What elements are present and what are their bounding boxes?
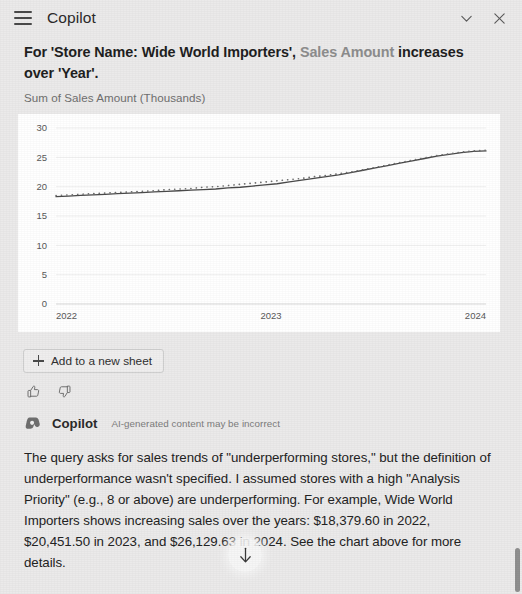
close-icon[interactable]: [491, 10, 508, 27]
vertical-scrollbar-thumb[interactable]: [515, 548, 520, 592]
copilot-pane: Copilot For 'Store Name: Wide World Impo…: [0, 0, 522, 594]
insight-headline-part1: For 'Store Name: Wide World Importers',: [24, 44, 300, 60]
svg-text:0: 0: [42, 298, 47, 309]
svg-text:20: 20: [36, 181, 47, 192]
svg-text:5: 5: [42, 269, 47, 280]
page-title: Copilot: [47, 9, 458, 27]
add-to-new-sheet-button[interactable]: Add to a new sheet: [23, 349, 164, 373]
chart-y-axis-labels: 051015202530: [36, 122, 47, 309]
svg-text:2023: 2023: [260, 310, 281, 321]
line-chart[interactable]: 051015202530 202220232024: [18, 114, 500, 332]
vertical-scrollbar-track[interactable]: [514, 36, 521, 594]
copilot-content: For 'Store Name: Wide World Importers', …: [0, 42, 522, 573]
svg-text:30: 30: [36, 122, 47, 133]
copilot-attribution: Copilot AI-generated content may be inco…: [24, 414, 504, 433]
thumbs-up-icon[interactable]: [26, 384, 41, 399]
svg-text:2024: 2024: [465, 310, 486, 321]
chevron-down-icon[interactable]: [458, 10, 475, 27]
chart-gridlines: [56, 128, 486, 304]
header-actions: [458, 10, 512, 27]
arrow-down-icon: [237, 546, 254, 565]
plus-icon: [33, 355, 44, 366]
thumbs-down-icon[interactable]: [57, 384, 72, 399]
chart-subtitle: Sum of Sales Amount (Thousands): [24, 91, 504, 104]
attribution-disclaimer: AI-generated content may be incorrect: [111, 418, 280, 429]
chart-card[interactable]: 051015202530 202220232024: [18, 114, 500, 332]
hamburger-bar: [14, 23, 32, 25]
hamburger-bar: [14, 17, 32, 19]
insight-headline: For 'Store Name: Wide World Importers', …: [24, 42, 494, 84]
svg-text:10: 10: [36, 239, 47, 250]
hamburger-menu-icon[interactable]: [14, 11, 32, 25]
feedback-row: [26, 384, 504, 399]
svg-text:25: 25: [36, 151, 47, 162]
copilot-header: Copilot: [0, 0, 522, 36]
copilot-logo-icon: [24, 414, 43, 433]
scroll-down-button[interactable]: [228, 538, 262, 572]
chart-x-axis-labels: 202220232024: [56, 310, 486, 321]
add-to-new-sheet-label: Add to a new sheet: [51, 354, 152, 368]
svg-text:15: 15: [36, 210, 47, 221]
attribution-name: Copilot: [52, 416, 97, 431]
svg-text:2022: 2022: [56, 310, 77, 321]
hamburger-bar: [14, 11, 32, 13]
insight-headline-measure: Sales Amount: [300, 44, 394, 60]
